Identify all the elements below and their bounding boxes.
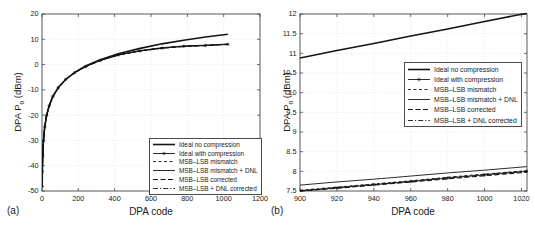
legend-line-sample — [152, 176, 176, 183]
x-axis-label-a: DPA code — [91, 206, 211, 217]
x-tick-label: 920 — [331, 194, 343, 203]
legend-item: Ideal with compression — [152, 149, 258, 158]
y-tick-label: 9 — [292, 127, 296, 136]
y-tick-label: 20 — [30, 9, 38, 18]
legend-label: MSB–LSB mismatch — [179, 158, 238, 165]
legend-label: MSB–LSB corrected — [179, 176, 237, 183]
legend-item: MSB–LSB mismatch + DNL — [152, 166, 258, 175]
y-tick-label: -50 — [28, 186, 39, 195]
legend-item: MSB–LSB mismatch — [407, 84, 518, 94]
legend-item: MSB–LSB + DNL corrected — [407, 115, 518, 125]
legend-label: MSB–LSB mismatch + DNL — [179, 167, 258, 174]
y-tick-label: 10 — [30, 35, 38, 44]
legend-label: Ideal with compression — [179, 150, 244, 157]
x-axis-label-b: DPA code — [353, 206, 473, 217]
legend-label: MSB–LSB mismatch — [434, 86, 496, 93]
series-line-0 — [300, 13, 527, 58]
x-tick-label: 940 — [368, 194, 380, 203]
panel-tag-b: (b) — [271, 205, 283, 216]
legend-line-sample — [407, 106, 431, 113]
x-tick-label: 200 — [72, 194, 84, 203]
y-tick-label: -40 — [28, 161, 39, 170]
legend-item: MSB–LSB + DNL corrected — [152, 184, 258, 193]
legend-item: MSB–LSB corrected — [152, 175, 258, 184]
legend-a: Ideal no compressionIdeal with compressi… — [149, 138, 262, 195]
plot-area-a: 020040060080010001200-50-40-30-20-100102… — [0, 0, 268, 237]
x-tick-label: 1020 — [513, 194, 529, 203]
legend-item: Ideal no compression — [407, 64, 518, 74]
legend-item: Ideal with compression — [407, 74, 518, 84]
legend-label: Ideal no compression — [179, 141, 240, 148]
y-tick-label: -20 — [28, 111, 39, 120]
x-tick-label: 1200 — [252, 194, 268, 203]
legend-line-sample — [152, 150, 176, 157]
legend-line-sample — [152, 185, 176, 192]
x-tick-label: 1000 — [476, 194, 492, 203]
y-tick-label: 8 — [292, 167, 296, 176]
x-tick-label: 800 — [181, 194, 193, 203]
legend-line-sample — [407, 86, 431, 93]
legend-label: MSB–LSB + DNL corrected — [179, 185, 257, 192]
legend-line-sample — [407, 96, 431, 103]
y-tick-label: 0 — [34, 60, 38, 69]
chart-panel-a: 020040060080010001200-50-40-30-20-100102… — [0, 0, 268, 237]
legend-item: MSB–LSB mismatch — [152, 158, 258, 167]
panel-tag-a: (a) — [7, 205, 19, 216]
legend-item: MSB–LSB corrected — [407, 105, 518, 115]
y-tick-label: -30 — [28, 136, 39, 145]
legend-b: Ideal no compressionIdeal with compressi… — [404, 62, 522, 127]
y-tick-label: -10 — [28, 85, 39, 94]
legend-line-sample — [407, 66, 431, 73]
y-axis-label-b: DPA Po (dBm) — [281, 13, 293, 191]
legend-item: Ideal no compression — [152, 140, 258, 149]
legend-label: MSB–LSB corrected — [434, 106, 496, 113]
legend-label: Ideal no compression — [434, 66, 499, 73]
x-tick-label: 1000 — [216, 194, 232, 203]
legend-line-sample — [152, 141, 176, 148]
x-tick-label: 960 — [405, 194, 417, 203]
x-tick-label: 400 — [109, 194, 121, 203]
legend-label: MSB–LSB mismatch + DNL — [434, 96, 518, 103]
legend-item: MSB–LSB mismatch + DNL — [407, 95, 518, 105]
x-tick-label: 980 — [442, 194, 454, 203]
series-line-3 — [300, 167, 527, 185]
legend-line-sample — [407, 117, 431, 124]
x-tick-label: 0 — [40, 194, 44, 203]
legend-label: MSB–LSB + DNL corrected — [434, 117, 517, 124]
series-line-4 — [300, 172, 527, 191]
x-tick-label: 600 — [145, 194, 157, 203]
y-axis-label-a: DPA Po (dBm) — [12, 13, 24, 191]
legend-line-sample — [407, 76, 431, 83]
chart-panel-b: 900920940960980100010207.588.599.51010.5… — [268, 0, 535, 237]
figure-container: 020040060080010001200-50-40-30-20-100102… — [0, 0, 535, 237]
legend-line-sample — [152, 167, 176, 174]
legend-line-sample — [152, 158, 176, 165]
legend-label: Ideal with compression — [434, 76, 503, 83]
